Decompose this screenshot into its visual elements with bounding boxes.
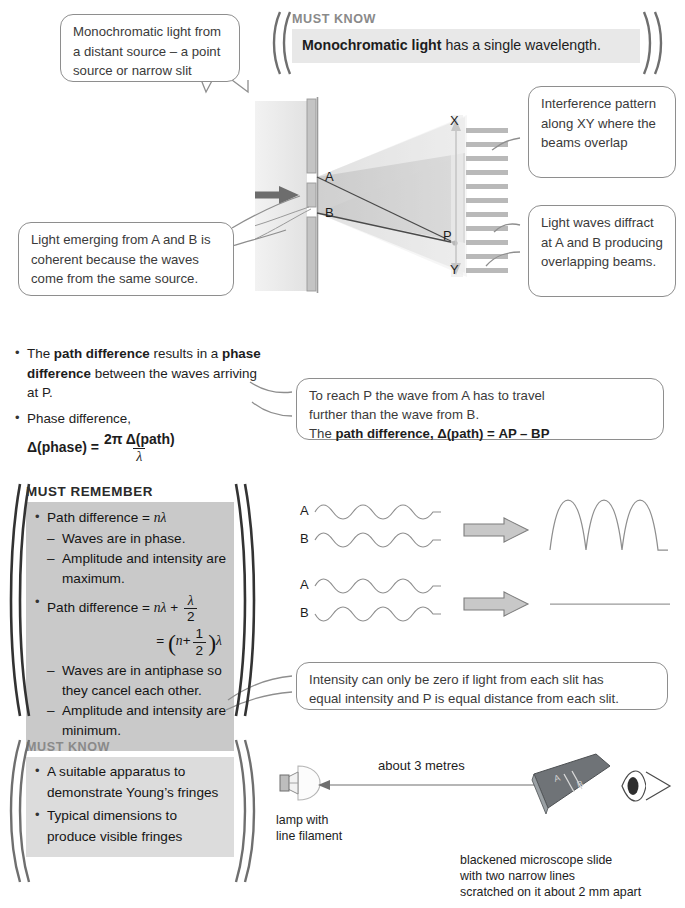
must-know-top-panel: MUST KNOW Monochromatic light has a sing… [292, 12, 640, 63]
leader-intensity-2 [226, 692, 292, 710]
mk-item: Typical dimensions to produce visible fr… [34, 806, 226, 847]
lamp-caption: lamp with line filament [276, 812, 342, 844]
fringe-bar [466, 254, 508, 259]
fringe-bar [466, 142, 508, 147]
bracket-right-must-remember [232, 480, 258, 720]
wave-a-antiphase [315, 579, 441, 593]
mr-eq: = [156, 634, 164, 649]
bracket-right-must-know-bottom [232, 736, 258, 886]
intensity-line-1: Intensity can only be zero if light from… [309, 670, 656, 689]
fringe-bar [466, 212, 508, 217]
lamp-caption-line-2: line filament [276, 828, 342, 844]
must-know-bottom-list: A suitable apparatus to demonstrate Youn… [34, 762, 226, 847]
must-know-top-term: Monochromatic light [302, 37, 442, 53]
mr-close-paren: ) [208, 636, 216, 651]
mr-sub: Amplitude and intensity are minimum. [47, 701, 226, 741]
mr-item2-plus: + [166, 600, 182, 615]
bullet-path-results-in-phase: The path difference results in a phase d… [14, 344, 269, 403]
path-difference-line-3: The path difference, Δ(path) = AP – BP [309, 424, 652, 443]
mr-half-num: 1 [193, 626, 207, 641]
slide-caption: blackened microscope slide with two narr… [460, 852, 641, 900]
callout-diffraction: Light waves diffract at A and B producin… [528, 205, 676, 297]
path-difference-line-1: To reach P the wave from A has to travel [309, 386, 652, 405]
fringe-bar [466, 198, 508, 203]
mr-item2-sublist: Waves are in antiphase so they cancel ea… [47, 661, 226, 741]
slide-caption-line-1: blackened microscope slide [460, 852, 641, 868]
must-know-top-heading: MUST KNOW [292, 12, 640, 26]
wave-row2-label-a: A [300, 577, 309, 592]
wave-pair-antiphase [313, 570, 443, 628]
wave-a-in-phase [315, 505, 441, 519]
mr-item2-value: nλ [154, 600, 167, 615]
must-know-top-rest: has a single wavelength. [442, 37, 601, 53]
pp-pre: The [27, 346, 54, 361]
slide-caption-line-2: with two narrow lines [460, 868, 641, 884]
distance-label: about 3 metres [378, 758, 465, 774]
mr-frac-den: 2 [184, 608, 198, 624]
arrow-constructive [462, 516, 532, 544]
wave-resultant-destructive [548, 590, 674, 618]
microscope-slide-icon: A B [530, 752, 620, 832]
path-phase-bullets: The path difference results in a phase d… [14, 344, 269, 464]
mr-item1-value: nλ [154, 510, 167, 525]
pd-bold: path difference [335, 426, 430, 441]
mr-plus2: + [183, 634, 191, 649]
screen-strip [451, 115, 463, 277]
must-remember-heading: MUST REMEMBER [26, 484, 234, 499]
pd-pre: The [309, 426, 335, 441]
must-remember-body: Path difference = nλ Waves are in phase.… [26, 502, 234, 751]
mr-item1-sublist: Waves are in phase. Amplitude and intens… [47, 529, 226, 589]
mr-lambda: λ [216, 634, 222, 649]
arrow-destructive [462, 590, 532, 618]
callout-coherence: Light emerging from A and B is coherent … [18, 222, 234, 296]
wave-row1-label-b: B [300, 531, 309, 546]
mk-item: A suitable apparatus to demonstrate Youn… [34, 762, 226, 803]
pd-post: , Δ(path) = AP – BP [430, 426, 550, 441]
callout-interference-pattern: Interference pattern along XY where the … [528, 86, 676, 178]
mr-sub: Amplitude and intensity are maximum. [47, 549, 226, 589]
fringe-bar [466, 268, 508, 273]
lamp-caption-line-1: lamp with [276, 812, 342, 828]
callout-zero-intensity: Intensity can only be zero if light from… [296, 662, 668, 710]
mr-half-fraction: 12 [193, 626, 207, 657]
fringe-bar [466, 170, 508, 175]
beam-wash [317, 115, 467, 277]
wave-row1-label-a: A [300, 503, 309, 518]
formula-lhs: Δ(phase) = [27, 438, 99, 458]
mr-item2-fraction: λ2 [184, 593, 198, 624]
slide-caption-line-3: scratched on it about 2 mm apart [460, 884, 641, 900]
mr-item-destructive: Path difference = nλ + λ2 = (n+12)λ Wave… [34, 593, 226, 741]
must-know-bottom-body: A suitable apparatus to demonstrate Youn… [26, 757, 234, 857]
mr-frac-num: λ [185, 593, 197, 608]
mr-item-constructive: Path difference = nλ Waves are in phase.… [34, 508, 226, 589]
barrier-lower-segment [307, 217, 316, 291]
formula-fraction: 2π Δ(path) λ [101, 432, 178, 464]
mr-item2-label: Path difference = [47, 600, 154, 615]
fringe-bar [466, 128, 508, 133]
eye-icon [612, 762, 674, 810]
wave-b-in-phase [315, 533, 441, 547]
wave-row2-label-b: B [300, 605, 309, 620]
revision-page: MUST KNOW Monochromatic light has a sing… [0, 0, 685, 908]
must-remember-list: Path difference = nλ Waves are in phase.… [34, 508, 226, 741]
mr-n: n [176, 634, 183, 649]
intensity-line-2: equal intensity and P is equal distance … [309, 689, 656, 708]
bullet-phase-difference: Phase difference, [14, 409, 269, 429]
mr-open-paren: ( [168, 636, 176, 651]
formula-denominator: λ [133, 448, 145, 465]
must-know-bottom-panel: MUST KNOW A suitable apparatus to demons… [26, 740, 234, 857]
wave-pair-in-phase [313, 496, 443, 554]
pp-b1: path difference [54, 346, 150, 361]
callout-path-difference: To reach P the wave from A has to travel… [296, 378, 664, 440]
bracket-right-top [638, 8, 668, 78]
label-slit-a: A [325, 169, 334, 184]
mr-sub: Waves are in phase. [47, 529, 226, 549]
must-know-bottom-heading: MUST KNOW [26, 740, 234, 754]
fringe-bar [466, 226, 508, 231]
fringe-bar [466, 184, 508, 189]
fringe-bar [466, 240, 508, 245]
label-point-p: P [443, 228, 452, 243]
formula-row: Δ(phase) = 2π Δ(path) λ [27, 432, 180, 464]
formula-numerator: 2π Δ(path) [101, 432, 178, 448]
wave-resultant-constructive [548, 496, 674, 556]
